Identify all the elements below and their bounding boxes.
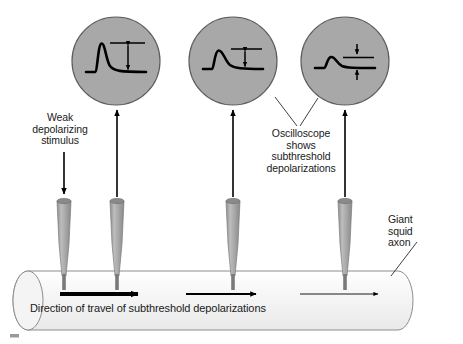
label-direction-of-travel: Direction of travel of subthreshold depo… bbox=[30, 303, 330, 315]
electrode-tip bbox=[231, 274, 235, 290]
axon-left-cap bbox=[13, 271, 43, 330]
label-weak-stimulus: Weak depolarizing stimulus bbox=[17, 112, 103, 147]
oscilloscope-trace-medium bbox=[189, 17, 277, 105]
oscilloscope-screen bbox=[301, 17, 389, 105]
leader-line-left bbox=[275, 97, 297, 126]
diagram-canvas bbox=[0, 0, 463, 344]
electrode-body bbox=[57, 201, 71, 276]
electrode-tip bbox=[62, 274, 66, 290]
label-giant-squid-axon: Giant squid axon bbox=[388, 214, 448, 249]
electrode-body bbox=[226, 201, 240, 276]
electrode-top-ellipse bbox=[57, 198, 71, 203]
electrode-top-ellipse bbox=[338, 198, 352, 203]
electrode-tip bbox=[343, 274, 347, 290]
electrode-tip bbox=[115, 274, 119, 290]
axon-body bbox=[13, 271, 413, 330]
electrode-top-ellipse bbox=[110, 198, 124, 203]
oscilloscope-screen bbox=[72, 17, 160, 105]
leader-line-right bbox=[300, 98, 318, 126]
giant-squid-axon bbox=[13, 271, 413, 330]
electrode-body bbox=[338, 201, 352, 276]
electrode-body bbox=[110, 201, 124, 276]
electrode-top-ellipse bbox=[226, 198, 240, 203]
oscilloscope-trace-large bbox=[72, 17, 160, 105]
oscilloscope-screen bbox=[189, 17, 277, 105]
corner-tick-mark bbox=[10, 334, 19, 338]
label-oscilloscope: Oscilloscope shows subthreshold depolari… bbox=[243, 128, 359, 174]
neuron-subthreshold-depolarization-diagram: Weak depolarizing stimulus Oscilloscope … bbox=[0, 0, 463, 344]
oscilloscope-trace-small bbox=[301, 17, 389, 105]
